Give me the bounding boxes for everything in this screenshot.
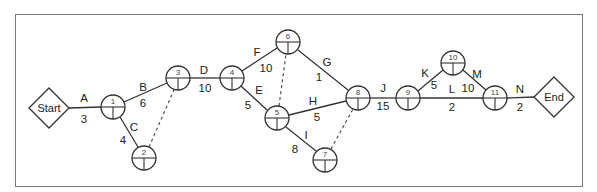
end-terminal: End [534,77,574,117]
label-i-duration: 8 [292,143,298,155]
event-node-4: 4 [220,66,244,90]
label-k-name: K [421,67,429,79]
label-b-duration: 6 [140,97,146,109]
label-f-name: F [253,46,260,58]
event-node-8: 8 [346,86,370,110]
label-m-duration: 10 [462,82,475,94]
event-node-7: 7 [313,148,337,172]
node-number: 1 [111,97,116,106]
start-terminal: Start [29,88,69,128]
event-node-11: 11 [483,86,507,110]
label-k-duration: 5 [431,79,437,91]
node-number: 5 [275,108,280,117]
node-number: 10 [449,53,458,62]
label-l-name: L [449,83,456,95]
event-node-5: 5 [265,106,289,130]
label-f-duration: 10 [260,62,273,74]
node-number: 9 [406,88,411,97]
label-n-name: N [516,83,524,95]
label-i-name: I [304,129,307,141]
label-l-duration: 2 [449,101,455,113]
node-number: 2 [142,148,147,157]
label-a-name: A [80,92,88,104]
label-g-duration: 1 [316,71,322,83]
network-diagram: A 3 B 6 C 4 D 10 E 5 F 10 G 1 H 5 I 8 J … [0,0,597,192]
label-d-name: D [200,64,208,76]
label-b-name: B [139,81,147,93]
label-h-duration: 5 [314,111,320,123]
label-c-duration: 4 [120,134,127,146]
event-node-9: 9 [396,86,420,110]
event-node-3: 3 [166,66,190,90]
label-e-name: E [255,84,263,96]
dummy-edge-5-6 [279,54,286,106]
label-c-name: C [130,121,138,133]
event-node-2: 2 [132,146,156,170]
event-node-10: 10 [441,51,465,75]
label-g-name: G [323,56,332,68]
event-node-6: 6 [276,30,300,54]
label-j-duration: 15 [377,100,390,112]
label-h-name: H [309,95,317,107]
end-label: End [544,91,564,103]
node-number: 6 [286,32,291,41]
label-j-name: J [380,82,386,94]
event-node-1: 1 [101,95,125,119]
edge-i [286,127,316,151]
label-d-duration: 10 [199,82,212,94]
node-number: 8 [356,88,361,97]
edge-n [507,97,534,98]
dummy-edge-2-3 [149,90,174,147]
start-label: Start [37,102,60,114]
node-number: 7 [323,150,328,159]
edge-a [69,107,101,108]
node-number: 3 [176,68,181,77]
dummy-edge-7-8 [331,109,353,149]
label-e-duration: 5 [245,99,251,111]
node-number: 11 [491,88,500,97]
label-a-duration: 3 [81,113,87,125]
node-number: 4 [230,68,235,77]
label-m-name: M [472,68,482,80]
label-n-duration: 2 [517,101,523,113]
